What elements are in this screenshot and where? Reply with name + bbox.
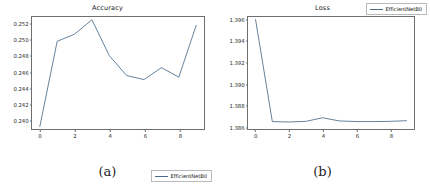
y-axis-tick-label: 0.242 <box>14 102 32 108</box>
y-axis-tick-label: 1.390 <box>230 82 248 88</box>
x-axis-tick-label: 8 <box>390 129 393 139</box>
x-axis-tick-label: 4 <box>108 129 111 139</box>
subfigure-caption-a: (a) <box>0 164 215 179</box>
x-axis-tick-label: 6 <box>356 129 359 139</box>
x-axis-tick-label: 2 <box>73 129 76 139</box>
y-axis-tick-label: 0.250 <box>14 37 32 43</box>
x-axis-tick-label: 0 <box>38 129 41 139</box>
y-axis-tick-label: 1.392 <box>230 60 248 66</box>
y-axis-tick-label: 1.396 <box>230 17 248 23</box>
subfigure-caption-b: (b) <box>215 164 430 179</box>
x-axis-tick-label: 6 <box>144 129 147 139</box>
chart-title-accuracy: Accuracy <box>0 4 215 12</box>
y-axis-tick-label: 1.394 <box>230 38 248 44</box>
plot-area-loss: 1.3861.3881.3901.3921.3941.39602468 <box>247 16 415 130</box>
y-axis-tick-label: 0.246 <box>14 70 32 76</box>
y-axis-tick-label: 1.388 <box>230 103 248 109</box>
chart-panel-loss: Loss 1.3861.3881.3901.3921.3941.39602468… <box>215 0 430 185</box>
accuracy-line-series <box>32 17 204 129</box>
x-axis-tick-label: 2 <box>288 129 291 139</box>
y-axis-tick-label: 0.252 <box>14 21 32 27</box>
loss-line-series <box>248 17 414 129</box>
y-axis-tick-label: 0.244 <box>14 86 32 92</box>
y-axis-tick-label: 0.240 <box>14 118 32 124</box>
x-axis-tick-label: 0 <box>254 129 257 139</box>
legend-line-swatch-icon <box>370 9 383 10</box>
y-axis-tick-label: 0.248 <box>14 53 32 59</box>
legend-loss: EfficientNetB0 <box>366 3 427 15</box>
x-axis-tick-label: 4 <box>322 129 325 139</box>
plot-area-accuracy: 0.2400.2420.2440.2460.2480.2500.25202468 <box>31 16 205 130</box>
x-axis-tick-label: 8 <box>179 129 182 139</box>
figure-container: Accuracy 0.2400.2420.2440.2460.2480.2500… <box>0 0 430 185</box>
chart-panel-accuracy: Accuracy 0.2400.2420.2440.2460.2480.2500… <box>0 0 215 185</box>
legend-label-loss: EfficientNetB0 <box>386 6 422 12</box>
y-axis-tick-label: 1.386 <box>230 125 248 131</box>
